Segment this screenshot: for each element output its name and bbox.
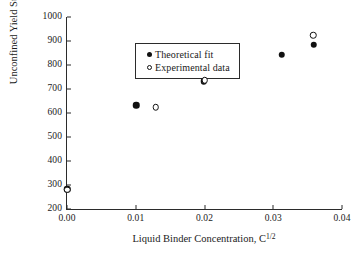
x-axis-tick-label: 0.01 [127,209,144,224]
y-axis-tick-label: 600 [47,108,67,118]
data-point [311,41,318,48]
legend-item-experimental-data: Experimental data [143,61,230,74]
y-axis-title-text: Unconfined Yield Strength, f [8,0,19,84]
y-axis-tick-label: 1000 [43,12,67,22]
y-axis-tick-mark [67,161,71,162]
data-point [152,104,159,111]
filled-circle-icon [143,52,155,57]
y-axis-tick-label: 500 [47,132,67,142]
x-axis-title: Liquid Binder Concentration, C1/2 [66,233,342,245]
open-circle-icon [143,65,155,70]
data-point [64,187,71,194]
y-axis-tick-mark [67,113,71,114]
data-point [133,102,140,109]
chart-legend: Theoretical fit Experimental data [135,43,240,79]
x-axis-tick-label: 0.03 [265,209,282,224]
data-point [201,77,208,84]
legend-item-theoretical-fit: Theoretical fit [143,48,230,61]
x-axis-tick-label: 0.02 [196,209,213,224]
y-axis-tick-label: 800 [47,60,67,70]
x-axis-title-exponent: 1/2 [266,232,276,241]
legend-label-experimental-data: Experimental data [155,63,230,73]
y-axis-tick-label: 700 [47,84,67,94]
plot-area: Theoretical fit Experimental data 200300… [66,17,342,210]
y-axis-tick-mark [67,17,71,18]
x-axis-title-text: Liquid Binder Concentration, C [132,233,266,244]
y-axis-tick-label: 900 [47,36,67,46]
x-axis-tick-label: 0.04 [333,209,350,224]
y-axis-tick-mark [67,137,71,138]
y-axis-tick-mark [67,89,71,90]
data-point [278,51,285,58]
y-axis-title: Unconfined Yield Strength, fc (kPa) [8,0,24,106]
x-axis-tick-label: 0.00 [58,209,75,224]
y-axis-tick-mark [67,65,71,66]
legend-label-theoretical-fit: Theoretical fit [155,50,213,60]
y-axis-tick-label: 400 [47,156,67,166]
data-point [310,32,317,39]
chart-figure: Theoretical fit Experimental data 200300… [0,0,362,261]
y-axis-tick-mark [67,41,71,42]
